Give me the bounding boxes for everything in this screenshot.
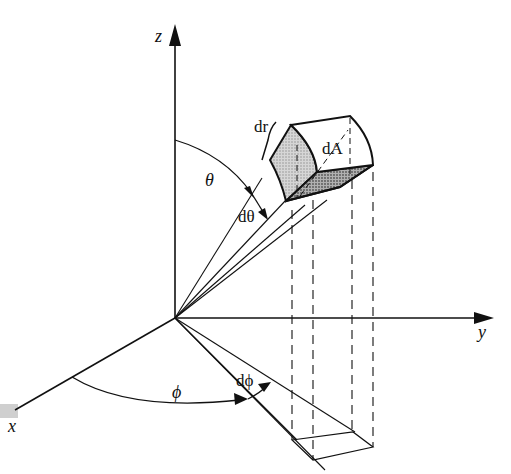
footprint [292, 432, 373, 460]
projection-rays [175, 318, 355, 470]
volume-element [270, 116, 373, 201]
dtheta-label: dθ [238, 207, 255, 226]
da-label: dA [322, 139, 344, 158]
theta-arc [175, 140, 254, 198]
y-axis [175, 312, 494, 324]
theta-label: θ [205, 170, 214, 190]
dphi-label: dϕ [236, 371, 254, 390]
radial-rays [175, 178, 327, 318]
x-axis [15, 318, 175, 410]
y-axis-label: y [476, 322, 486, 342]
dashed-projections [292, 172, 373, 460]
z-axis [169, 24, 181, 318]
dr-label: dr [254, 117, 269, 136]
x-axis-label: x [7, 416, 16, 436]
z-axis-label: z [154, 26, 162, 46]
spherical-coordinates-diagram: z y x [0, 0, 511, 474]
phi-arc [72, 377, 248, 405]
phi-label: ϕ [172, 382, 181, 402]
